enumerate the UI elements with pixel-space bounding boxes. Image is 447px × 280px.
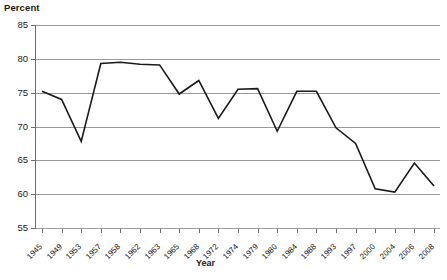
- y-tick-label: 75: [0, 87, 28, 98]
- x-tick-label: 2008: [417, 242, 436, 261]
- x-tick-label: 1965: [162, 242, 181, 261]
- x-tick-label: 1945: [25, 242, 44, 261]
- x-tick-mark: [336, 229, 337, 233]
- x-tick-mark: [238, 229, 239, 233]
- x-axis-title: Year: [196, 258, 215, 268]
- y-tick-mark: [31, 25, 35, 26]
- line-chart: Percent 55606570758085 19451949195319571…: [0, 0, 447, 280]
- x-tick-label: 2006: [397, 242, 416, 261]
- y-tick-label: 85: [0, 19, 28, 30]
- y-tick-label: 65: [0, 154, 28, 165]
- x-tick-label: 1949: [45, 242, 64, 261]
- x-tick-label: 1957: [84, 242, 103, 261]
- x-tick-mark: [62, 229, 63, 233]
- y-tick-mark: [31, 127, 35, 128]
- y-axis-title: Percent: [4, 2, 40, 13]
- x-tick-mark: [160, 229, 161, 233]
- x-tick-label: 1993: [319, 242, 338, 261]
- x-tick-label: 2000: [358, 242, 377, 261]
- x-tick-mark: [101, 229, 102, 233]
- y-tick-mark: [31, 228, 35, 229]
- series-percent-line: [36, 25, 440, 228]
- x-tick-mark: [179, 229, 180, 233]
- x-tick-label: 1974: [221, 242, 240, 261]
- x-tick-label: 2004: [378, 242, 397, 261]
- x-tick-mark: [81, 229, 82, 233]
- x-tick-mark: [356, 229, 357, 233]
- x-tick-label: 1962: [123, 242, 142, 261]
- x-tick-mark: [277, 229, 278, 233]
- x-tick-mark: [316, 229, 317, 233]
- x-tick-mark: [297, 229, 298, 233]
- y-tick-mark: [31, 59, 35, 60]
- x-tick-mark: [258, 229, 259, 233]
- y-tick-mark: [31, 160, 35, 161]
- x-tick-mark: [120, 229, 121, 233]
- x-tick-mark: [42, 229, 43, 233]
- y-tick-mark: [31, 194, 35, 195]
- y-tick-label: 80: [0, 53, 28, 64]
- x-tick-label: 1984: [280, 242, 299, 261]
- y-tick-label: 55: [0, 222, 28, 233]
- x-tick-label: 1979: [241, 242, 260, 261]
- y-tick-mark: [31, 93, 35, 94]
- x-tick-label: 1963: [143, 242, 162, 261]
- y-tick-label: 60: [0, 188, 28, 199]
- x-tick-mark: [140, 229, 141, 233]
- x-tick-mark: [434, 229, 435, 233]
- x-tick-mark: [218, 229, 219, 233]
- x-tick-label: 1953: [64, 242, 83, 261]
- x-tick-mark: [395, 229, 396, 233]
- x-tick-mark: [414, 229, 415, 233]
- x-tick-label: 1997: [339, 242, 358, 261]
- y-tick-label: 70: [0, 121, 28, 132]
- x-tick-label: 1958: [103, 242, 122, 261]
- x-tick-mark: [375, 229, 376, 233]
- x-tick-label: 1988: [299, 242, 318, 261]
- x-tick-label: 1980: [260, 242, 279, 261]
- x-tick-mark: [199, 229, 200, 233]
